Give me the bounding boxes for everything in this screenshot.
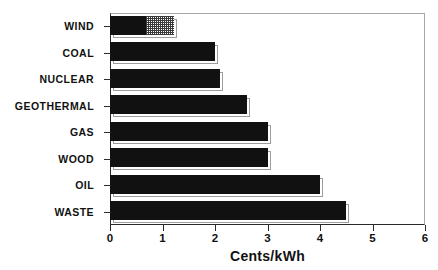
y-axis-tick <box>104 159 111 160</box>
y-axis-tick-label: WOOD <box>0 154 94 164</box>
x-axis-tick-label: 3 <box>256 232 280 244</box>
bar <box>110 175 320 194</box>
bar-segment-hatched <box>145 16 174 35</box>
bar-segment-solid <box>110 69 220 88</box>
bar-segment-solid <box>110 42 215 61</box>
bar-segment-solid <box>110 122 268 141</box>
x-axis-tick-label: 6 <box>413 232 437 244</box>
bar-segment-solid <box>110 148 268 167</box>
bar <box>110 201 346 220</box>
x-axis-tick-label: 4 <box>308 232 332 244</box>
x-axis-tick-label: 2 <box>203 232 227 244</box>
bar-segment-solid <box>110 95 247 114</box>
bar-body <box>110 122 268 141</box>
bar <box>110 16 174 35</box>
bar <box>110 122 268 141</box>
y-axis-tick-label: COAL <box>0 48 94 58</box>
bar-segment-solid <box>110 16 145 35</box>
y-axis-tick-label: OIL <box>0 180 94 190</box>
x-axis-tick <box>110 225 111 231</box>
y-axis-tick-label: GEOTHERMAL <box>0 101 94 111</box>
y-axis-tick <box>104 26 111 27</box>
x-axis-tick <box>268 225 269 231</box>
bar <box>110 95 247 114</box>
bar-body <box>110 42 215 61</box>
bar-segment-solid <box>110 175 320 194</box>
bar-body <box>110 16 174 35</box>
y-axis-tick-label: WIND <box>0 21 94 31</box>
x-axis-tick <box>163 225 164 231</box>
y-axis-tick <box>104 53 111 54</box>
y-axis-tick-label: NUCLEAR <box>0 74 94 84</box>
bar <box>110 69 220 88</box>
x-axis-title: Cents/kWh <box>110 248 425 264</box>
bar-body <box>110 69 220 88</box>
x-axis-tick <box>425 225 426 231</box>
y-axis-tick <box>104 212 111 213</box>
bar-body <box>110 148 268 167</box>
y-axis-tick <box>104 106 111 107</box>
bar-body <box>110 201 346 220</box>
x-axis-tick <box>373 225 374 231</box>
y-axis-tick-label: WASTE <box>0 207 94 217</box>
bar <box>110 148 268 167</box>
bars-layer <box>110 13 425 225</box>
bar-segment-solid <box>110 201 346 220</box>
x-axis-tick <box>215 225 216 231</box>
x-axis-tick-label: 1 <box>151 232 175 244</box>
y-axis-tick <box>104 185 111 186</box>
x-axis-tick-label: 5 <box>361 232 385 244</box>
y-axis-tick-label: GAS <box>0 127 94 137</box>
x-axis-tick <box>320 225 321 231</box>
bar-body <box>110 95 247 114</box>
y-axis-labels: WINDCOALNUCLEARGEOTHERMALGASWOODOILWASTE <box>0 13 94 225</box>
bar-chart: WINDCOALNUCLEARGEOTHERMALGASWOODOILWASTE… <box>0 0 438 270</box>
y-axis-tick <box>104 79 111 80</box>
bar <box>110 42 215 61</box>
x-axis-tick-label: 0 <box>98 232 122 244</box>
y-axis-tick <box>104 132 111 133</box>
bar-body <box>110 175 320 194</box>
